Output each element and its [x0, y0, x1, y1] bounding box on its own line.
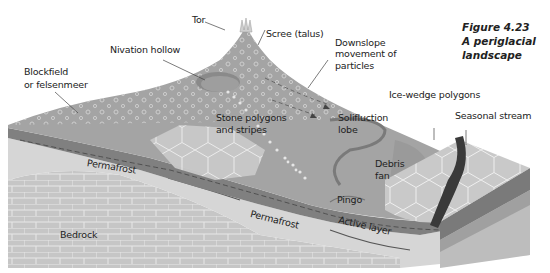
nivation-hollow: [196, 72, 240, 92]
figure-caption: Figure 4.23 A periglacial landscape: [462, 20, 536, 62]
label-downslope-2: movement of: [335, 48, 396, 59]
label-pingo: Pingo: [337, 194, 362, 205]
label-ice-wedge-polygons: Ice-wedge polygons: [389, 89, 480, 100]
label-debris-fan-1: Debris: [375, 158, 405, 169]
label-solifluction-1: Solifluction: [338, 112, 388, 123]
label-stone-polygons-2: and stripes: [216, 124, 267, 135]
figure-title-line2: landscape: [462, 48, 536, 62]
tor-feature: [240, 18, 252, 32]
label-tor: Tor: [192, 14, 205, 25]
figure-title-line1: A periglacial: [462, 34, 536, 48]
label-debris-fan-2: fan: [375, 170, 390, 181]
label-stone-polygons-1: Stone polygons: [216, 112, 287, 123]
label-seasonal-stream: Seasonal stream: [455, 110, 531, 121]
label-blockfield-1: Blockfield: [24, 66, 68, 77]
label-blockfield-2: or felsenmeer: [24, 79, 88, 90]
label-nivation-hollow: Nivation hollow: [110, 44, 180, 55]
label-downslope-3: particles: [335, 60, 374, 71]
figure-number: Figure 4.23: [462, 20, 536, 34]
label-downslope-1: Downslope: [335, 37, 385, 48]
label-bedrock: Bedrock: [60, 229, 97, 240]
label-solifluction-2: lobe: [338, 124, 358, 135]
label-scree: Scree (talus): [266, 28, 324, 39]
